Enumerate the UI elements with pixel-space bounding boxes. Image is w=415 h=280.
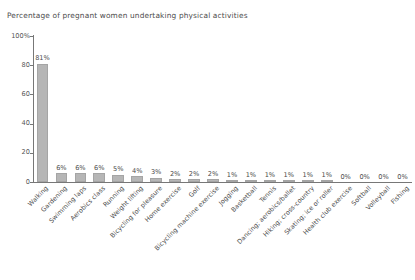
bar-group[interactable]: 5% — [112, 36, 124, 182]
y-axis-tick-label: 40 — [3, 120, 30, 127]
bar-group[interactable]: 1% — [226, 36, 238, 182]
x-axis-category-label: Hiking; cross-country — [262, 185, 316, 239]
bar-group[interactable]: 0% — [340, 36, 352, 182]
bar-group[interactable]: 1% — [264, 36, 276, 182]
bar-group[interactable]: 1% — [321, 36, 333, 182]
x-axis-category-label: Dancing; aerobics/ballet — [236, 185, 297, 246]
bar-group[interactable]: 0% — [397, 36, 409, 182]
x-axis-category-label: Weight lifting — [110, 185, 146, 221]
x-axis-category-label: Gardening — [40, 185, 69, 214]
x-axis-category-label: Aerobics class — [70, 185, 108, 223]
bar[interactable] — [112, 175, 124, 182]
bar-group[interactable]: 4% — [131, 36, 143, 182]
bar[interactable] — [207, 179, 219, 182]
x-axis-category-label: Basketball — [230, 185, 259, 214]
bar[interactable] — [37, 64, 49, 182]
x-axis-category-label: Running — [102, 185, 126, 209]
bar[interactable] — [131, 176, 143, 182]
bar-group[interactable]: 81% — [37, 36, 49, 182]
y-axis-tick-labels: 020406080100% — [0, 0, 30, 280]
bar[interactable] — [75, 173, 87, 182]
y-axis-tick-label: 60 — [3, 91, 30, 98]
bar[interactable] — [302, 180, 314, 182]
bar[interactable] — [188, 179, 200, 182]
y-axis-tick-label: 80 — [3, 62, 30, 69]
x-axis-category-label: Swimming laps — [48, 185, 88, 225]
x-axis-category-label: Volleyball — [364, 185, 391, 212]
x-axis-category-label: Bicycling for pleasure — [109, 185, 164, 240]
bar[interactable] — [283, 180, 295, 182]
x-axis-category-label: Walking — [27, 185, 50, 208]
bar[interactable] — [321, 180, 333, 182]
bar-group[interactable]: 6% — [93, 36, 105, 182]
bar[interactable] — [56, 173, 68, 182]
bar-group[interactable]: 1% — [283, 36, 295, 182]
bar[interactable] — [150, 178, 162, 182]
bar-value-label: 0% — [390, 174, 415, 181]
plot-area: 81%6%6%6%5%4%3%2%2%2%1%1%1%1%1%1%0%0%0%0… — [33, 36, 412, 182]
x-axis-category-label: Bicycling machine exercise — [154, 185, 221, 252]
y-axis-tick-mark — [30, 182, 33, 183]
bar[interactable] — [93, 173, 105, 182]
bar-group[interactable]: 0% — [359, 36, 371, 182]
bar[interactable] — [169, 179, 181, 182]
bar-group[interactable]: 6% — [75, 36, 87, 182]
x-axis-category-label: Health club exercise — [302, 185, 354, 237]
bar-group[interactable]: 3% — [150, 36, 162, 182]
x-axis-category-label: Skating; ice or roller — [283, 185, 335, 237]
bar-group[interactable]: 2% — [207, 36, 219, 182]
x-axis-category-label: Tennis — [258, 185, 277, 204]
bar-group[interactable]: 2% — [169, 36, 181, 182]
bar-chart: Percentage of pregnant women undertaking… — [0, 0, 415, 280]
bar[interactable] — [264, 180, 276, 182]
bar[interactable] — [226, 180, 238, 182]
x-axis-category-label: Golf — [188, 185, 202, 199]
y-axis-tick-label: 0 — [3, 179, 30, 186]
bar-group[interactable]: 6% — [56, 36, 68, 182]
x-axis-category-label: Jogging — [218, 185, 240, 207]
y-axis-tick-label: 20 — [3, 149, 30, 156]
bar[interactable] — [245, 180, 257, 182]
y-axis-tick-label: 100% — [3, 33, 30, 40]
chart-title: Percentage of pregnant women undertaking… — [7, 11, 248, 21]
x-axis-category-label: Fishing — [389, 185, 410, 206]
bar-group[interactable]: 0% — [378, 36, 390, 182]
x-axis-category-label: Home exercise — [144, 185, 183, 224]
x-axis-category-label: Softball — [350, 185, 372, 207]
bar-value-label: 81% — [30, 55, 56, 62]
x-axis-line — [33, 182, 412, 183]
bar-group[interactable]: 1% — [245, 36, 257, 182]
bar-group[interactable]: 1% — [302, 36, 314, 182]
bar-group[interactable]: 2% — [188, 36, 200, 182]
